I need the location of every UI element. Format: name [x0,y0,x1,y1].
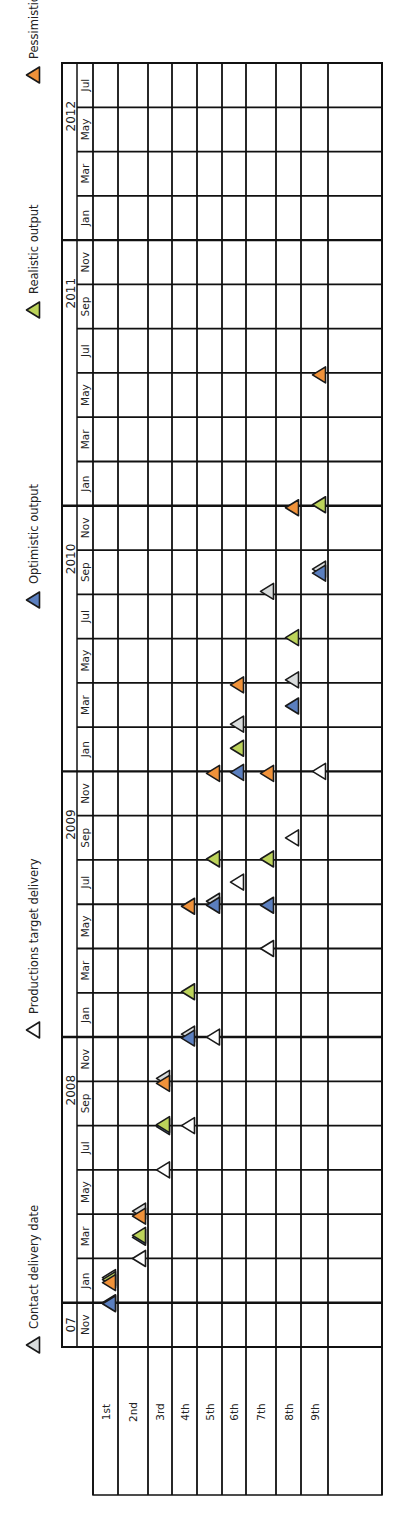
target-marker-icon [157,1162,170,1178]
month-label: Jul [79,876,91,890]
month-label: Nov [79,252,91,273]
delivery-label: 9th [309,1403,321,1420]
year-label: 07 [64,1317,78,1332]
month-label: Nov [79,783,91,804]
target-marker-icon [182,1118,195,1134]
pessimistic-marker-icon [182,898,195,914]
delivery-label: 3rd [154,1403,166,1420]
delivery-label: 7th [255,1403,267,1420]
legend-label: Realistic output [27,204,41,294]
month-label: May [79,1181,91,1203]
month-label: May [79,384,91,406]
month-label: Jan [79,1007,91,1024]
year-label: 2008 [64,1075,78,1106]
month-label: Jul [79,610,91,624]
target-legend-icon [27,1022,40,1038]
target-marker-icon [313,763,326,779]
realistic-marker-icon [207,851,220,867]
month-label: Jul [79,344,91,358]
contract-marker-icon [286,672,299,688]
legend-label: Productions target delivery [27,858,41,1014]
delivery-label: 5th [204,1403,216,1420]
month-label: May [79,119,91,141]
month-label: Nov [79,1315,91,1336]
optimistic-marker-icon [231,764,244,780]
year-label: 2011 [64,278,78,309]
month-label: May [79,916,91,938]
month-label: May [79,650,91,672]
target-marker-icon [261,941,274,957]
month-label: Jan [79,210,91,227]
realistic-legend-icon [27,302,40,318]
pessimistic-legend-icon [27,67,40,83]
delivery-labels: 1st2nd3rd4th5th6th7th8th9th [100,1402,321,1422]
month-label: Mar [79,163,91,183]
target-marker-icon [207,1029,220,1045]
year-label: 2009 [64,809,78,840]
month-label: Mar [79,694,91,714]
month-label: Mar [79,960,91,980]
pessimistic-marker-icon [261,765,274,781]
target-marker-icon [286,830,299,846]
realistic-marker-icon [286,630,299,646]
year-label: 2012 [64,101,78,132]
contract-marker-icon [231,716,244,732]
month-label: Jan [79,1272,91,1289]
optimistic-marker-icon [286,698,299,714]
legend-label: Pessimistic output [27,0,41,59]
pessimistic-marker-icon [286,500,299,516]
year-label: 2010 [64,544,78,575]
legend: Contact delivery dateProductions target … [27,0,42,1353]
delivery-label: 8th [283,1403,295,1420]
pessimistic-marker-icon [231,677,244,693]
contract-legend-icon [27,1337,40,1353]
realistic-marker-icon [231,740,244,756]
target-marker-icon [133,1250,146,1266]
realistic-marker-icon [313,497,326,513]
month-label: Sep [79,828,91,848]
contract-marker-icon [261,583,274,599]
realistic-marker-icon [182,984,195,1000]
month-label: Jul [79,1141,91,1155]
delivery-label: 2nd [127,1402,139,1422]
pessimistic-marker-icon [207,765,220,781]
optimistic-legend-icon [27,592,40,608]
month-label: Jul [79,79,91,93]
month-label: Nov [79,1049,91,1070]
month-label: Sep [79,1093,91,1113]
month-label: Mar [79,429,91,449]
optimistic-marker-icon [261,897,274,913]
month-label: Sep [79,296,91,316]
month-label: Sep [79,562,91,582]
legend-label: Contact delivery date [27,1205,41,1329]
realistic-marker-icon [261,851,274,867]
delivery-forecast-chart: NovJanMarMayJulSepNovJanMarMayJulSepNovJ… [0,0,414,1534]
month-label: Jan [79,476,91,493]
month-label: Jan [79,741,91,758]
month-label: Nov [79,518,91,539]
delivery-label: 4th [179,1403,191,1420]
pessimistic-marker-icon [313,367,326,383]
delivery-label: 6th [228,1403,240,1420]
target-marker-icon [231,874,244,890]
delivery-label: 1st [100,1404,112,1420]
legend-label: Optimistic output [27,483,41,584]
month-label: Mar [79,1226,91,1246]
